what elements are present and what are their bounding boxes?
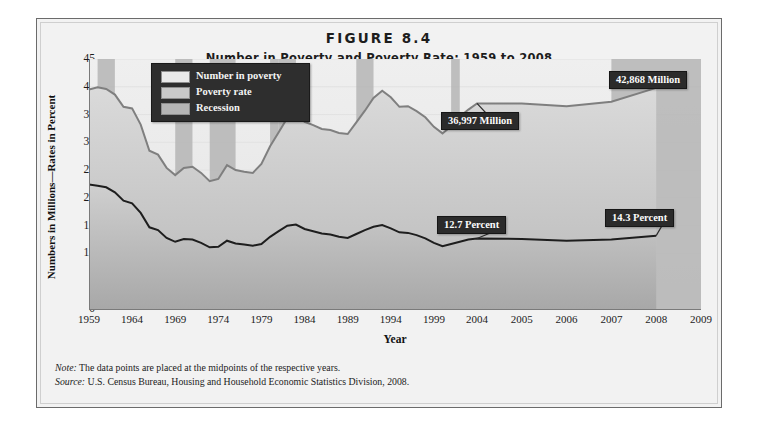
y-axis-label: Numbers in Millions—Rates in Percent [45,59,61,315]
x-tick-label: 2005 [511,313,533,325]
x-tick-label: 2008 [645,313,667,325]
legend-label: Poverty rate [196,86,252,97]
callout-number-in-poverty: 42,868 Million [609,71,687,89]
note-line: Note: The data points are placed at the … [55,361,695,375]
x-tick-label: 2006 [556,313,578,325]
figure-number: FIGURE 8.4 [37,30,721,46]
x-tick-label: 1964 [121,313,143,325]
callout-poverty-rate: 12.7 Percent [437,216,506,234]
source-text: U.S. Census Bureau, Housing and Househol… [85,376,409,387]
x-tick-label: 1959 [78,313,100,325]
x-axis-label: Year [89,333,701,345]
source-label: Source: [55,376,85,387]
figure-frame: FIGURE 8.4 Number in Poverty and Poverty… [36,18,722,408]
legend-label: Recession [196,102,240,113]
chart-legend: Number in povertyPoverty rateRecession [151,63,310,122]
callout-number-in-poverty: 36,997 Million [441,112,519,130]
x-tick-label: 2007 [600,313,622,325]
plot-area-wrapper: Numbers in Millions—Rates in Percent 051… [89,59,701,337]
x-tick-label: 1979 [250,313,272,325]
x-tick-label: 1969 [164,313,186,325]
x-tick-label: 1989 [337,313,359,325]
note-label: Note: [55,362,77,373]
x-tick-label: 1984 [294,313,316,325]
x-tick-label: 1999 [423,313,445,325]
legend-label: Number in poverty [196,70,282,81]
x-axis-line [89,309,701,310]
callout-poverty-rate: 14.3 Percent [605,209,674,227]
figure-notes: Note: The data points are placed at the … [55,361,695,389]
note-text: The data points are placed at the midpoi… [77,362,340,373]
source-line: Source: U.S. Census Bureau, Housing and … [55,375,695,389]
y-axis-line [89,59,90,309]
x-tick-label: 1974 [207,313,229,325]
x-tick-label: 2009 [690,313,712,325]
x-tick-label: 2004 [466,313,488,325]
legend-swatch-icon [161,103,190,115]
x-tick-label: 1994 [380,313,402,325]
legend-swatch-icon [161,87,190,99]
legend-swatch-icon [161,71,190,83]
